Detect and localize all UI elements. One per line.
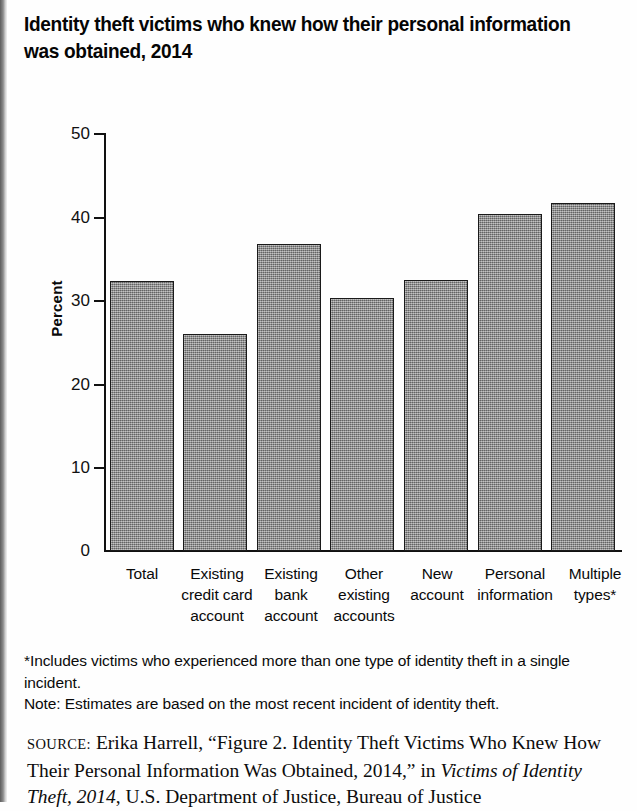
y-tick-label-0: 0	[44, 541, 90, 561]
y-axis-line	[104, 133, 106, 552]
x-label-total: Total	[102, 563, 182, 584]
bar-existing-credit-card	[183, 334, 247, 551]
bar-total	[110, 281, 174, 551]
bar-chart: Percent 50 40 30 20 10 0 Total Existing …	[0, 0, 637, 640]
y-tick-40	[94, 217, 105, 219]
x-label-other-existing-line2: existing	[322, 584, 406, 605]
x-label-other-existing-line3: accounts	[322, 605, 406, 626]
source-label: SOURCE:	[27, 736, 91, 752]
x-label-existing-bank-line2: bank	[249, 584, 333, 605]
figure-note: Note: Estimates are based on the most re…	[24, 693, 620, 715]
figure-footnote: *Includes victims who experienced more t…	[24, 650, 620, 693]
x-label-total-line1: Total	[102, 563, 182, 584]
x-label-existing-bank-line1: Existing	[249, 563, 333, 584]
y-tick-label-30: 30	[44, 291, 90, 311]
x-label-personal-information: Personal information	[466, 563, 564, 605]
figure-notes: *Includes victims who experienced more t…	[24, 650, 620, 715]
x-label-personal-information-line1: Personal	[466, 563, 564, 584]
y-tick-20	[94, 384, 105, 386]
y-tick-label-50: 50	[44, 124, 90, 144]
source-text-part2: , U.S. Department of Justice, Bureau of …	[116, 786, 482, 807]
bar-other-existing	[330, 298, 394, 551]
y-tick-label-10: 10	[44, 458, 90, 478]
x-label-multiple-types-line2: types*	[556, 584, 634, 605]
x-label-personal-information-line2: information	[466, 584, 564, 605]
y-tick-30	[94, 300, 105, 302]
y-tick-10	[94, 467, 105, 469]
y-tick-50	[94, 133, 105, 135]
bar-new-account	[404, 280, 468, 551]
bar-existing-bank	[257, 244, 321, 551]
x-label-multiple-types-line1: Multiple	[556, 563, 634, 584]
x-label-existing-bank-line3: account	[249, 605, 333, 626]
x-label-existing-bank: Existing bank account	[249, 563, 333, 626]
bar-multiple-types	[551, 203, 615, 551]
figure-source: SOURCE: Erika Harrell, “Figure 2. Identi…	[27, 730, 627, 811]
x-label-other-existing-line1: Other	[322, 563, 406, 584]
bar-personal-information	[478, 214, 542, 551]
y-tick-label-20: 20	[44, 375, 90, 395]
x-label-multiple-types: Multiple types*	[556, 563, 634, 605]
x-label-other-existing: Other existing accounts	[322, 563, 406, 626]
y-tick-label-40: 40	[44, 208, 90, 228]
